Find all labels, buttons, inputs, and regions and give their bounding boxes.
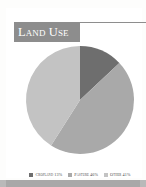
footer-bar	[0, 180, 146, 187]
title-banner: Land Use	[14, 22, 80, 42]
legend-item-other[interactable]: Other 41%	[104, 173, 130, 177]
footer-bar-inner	[6, 180, 140, 187]
page-root: Land Use Cropland 13% Pasture 46% Other …	[0, 0, 146, 187]
legend-label-other: Other 41%	[110, 173, 130, 177]
pie-slice-group	[26, 46, 134, 154]
legend-label-cropland: Cropland 13%	[35, 173, 62, 177]
legend-swatch-pasture	[68, 173, 72, 177]
page-title: Land Use	[18, 26, 69, 39]
legend-label-pasture: Pasture 46%	[74, 173, 98, 177]
chart-legend: Cropland 13% Pasture 46% Other 41%	[14, 170, 146, 180]
legend-swatch-other	[104, 173, 108, 177]
land-use-card: Land Use Cropland 13% Pasture 46% Other …	[6, 8, 142, 178]
legend-item-pasture[interactable]: Pasture 46%	[68, 173, 98, 177]
legend-swatch-cropland	[29, 173, 33, 177]
pie-chart	[12, 44, 146, 166]
pie-chart-svg	[12, 44, 146, 166]
legend-item-cropland[interactable]: Cropland 13%	[29, 173, 62, 177]
